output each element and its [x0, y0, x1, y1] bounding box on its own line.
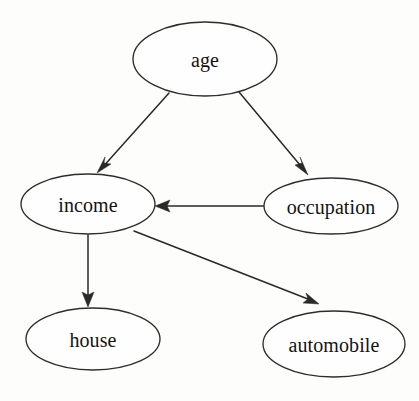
node-label-occupation: occupation: [287, 196, 376, 219]
nodes-layer: age income occupation house automobile: [21, 22, 405, 377]
edge-income-to-automobile: [134, 231, 319, 304]
edge-income-to-house: [82, 235, 94, 307]
network-graph: age income occupation house automobile: [0, 0, 419, 401]
edge-occupation-to-income: [155, 200, 264, 212]
node-label-income: income: [58, 194, 117, 216]
node-automobile[interactable]: automobile: [263, 311, 405, 377]
edge-line-income-automobile: [134, 231, 313, 301]
node-age[interactable]: age: [133, 22, 277, 96]
arrowhead-age-occupation: [295, 157, 308, 175]
edge-age-to-income: [97, 93, 169, 173]
node-label-automobile: automobile: [289, 334, 380, 356]
edge-line-age-occupation: [239, 92, 305, 171]
node-label-age: age: [191, 49, 219, 72]
edge-line-age-income: [101, 93, 169, 169]
diagram-canvas: age income occupation house automobile: [0, 0, 419, 401]
node-income[interactable]: income: [21, 174, 155, 234]
node-label-house: house: [69, 329, 116, 351]
edge-age-to-occupation: [239, 92, 308, 175]
node-house[interactable]: house: [26, 308, 160, 370]
node-occupation[interactable]: occupation: [264, 178, 398, 234]
